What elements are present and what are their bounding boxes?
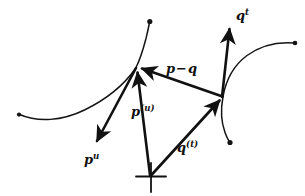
label-p-tangent-base: p (84, 152, 93, 167)
label-q-tangent-sup: t (245, 7, 249, 17)
label-p-tangent: pu (84, 152, 99, 166)
vector-diagram-canvas: pu p(u) p−q q(t) qt (0, 0, 305, 196)
position-vector-q (151, 101, 220, 177)
label-difference: p−q (166, 62, 197, 75)
label-q-tangent: qt (236, 8, 249, 22)
label-q-point-sup: (t) (186, 139, 198, 149)
label-q-point: q(t) (177, 140, 198, 154)
origin-cross-marker (136, 163, 166, 192)
label-q-tangent-base: q (236, 8, 245, 23)
sketch-svg (0, 0, 305, 196)
label-p-point: p(u) (131, 104, 154, 118)
label-p-point-base: p (131, 104, 140, 119)
label-p-tangent-sup: u (93, 151, 99, 161)
position-vector-p (138, 73, 151, 176)
label-difference-base2: q (188, 61, 197, 76)
label-p-point-sup: (u) (140, 103, 154, 113)
label-difference-base: p (166, 61, 175, 76)
curve-through-q (222, 41, 298, 145)
label-q-point-base: q (177, 140, 186, 155)
minus-sign-icon: − (175, 61, 188, 76)
